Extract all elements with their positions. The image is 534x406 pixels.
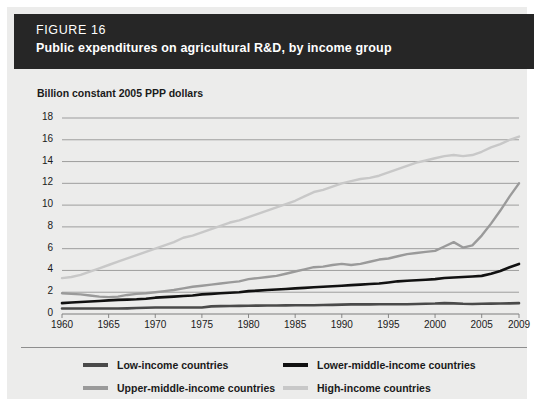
figure-header: FIGURE 16 Public expenditures on agricul… xyxy=(14,14,534,69)
y-axis-title: Billion constant 2005 PPP dollars xyxy=(37,87,203,99)
legend-item[interactable]: High-income countries xyxy=(283,382,527,394)
legend-label: High-income countries xyxy=(317,382,431,394)
legend-item[interactable]: Lower-middle-income countries xyxy=(283,359,527,371)
legend-swatch-icon xyxy=(83,386,108,390)
chart-legend: Low-income countriesLower-middle-income … xyxy=(21,359,527,394)
legend-swatch-icon xyxy=(283,386,308,390)
x-tick-label: 1980 xyxy=(229,319,269,330)
legend-item[interactable]: Low-income countries xyxy=(83,359,283,371)
x-tick-label: 1975 xyxy=(182,319,222,330)
x-tick-label: 1965 xyxy=(89,319,129,330)
y-tick-label: 8 xyxy=(31,220,53,231)
y-tick-label: 12 xyxy=(31,176,53,187)
y-tick-label: 10 xyxy=(31,198,53,209)
x-tick-label: 1970 xyxy=(135,319,175,330)
legend-label: Upper-middle-income countries xyxy=(117,382,275,394)
y-tick-label: 0 xyxy=(31,307,53,318)
y-tick-label: 14 xyxy=(31,155,53,166)
legend-swatch-icon xyxy=(283,363,308,367)
x-tick-label: 2005 xyxy=(462,319,502,330)
x-tick-label: 1990 xyxy=(322,319,362,330)
legend-separator xyxy=(21,347,527,348)
x-tick-label: 1985 xyxy=(275,319,315,330)
legend-label: Low-income countries xyxy=(117,359,228,371)
legend-swatch-icon xyxy=(83,363,108,367)
series-line xyxy=(62,264,519,303)
x-tick-label: 1960 xyxy=(42,319,82,330)
series-line xyxy=(62,183,519,297)
y-tick-label: 16 xyxy=(31,133,53,144)
legend-item[interactable]: Upper-middle-income countries xyxy=(83,382,283,394)
x-tick-label: 2000 xyxy=(415,319,455,330)
figure-container: FIGURE 16 Public expenditures on agricul… xyxy=(0,0,534,406)
series-line xyxy=(62,137,519,279)
x-tick-label: 1995 xyxy=(368,319,408,330)
y-tick-label: 2 xyxy=(31,285,53,296)
chart-svg xyxy=(7,107,534,332)
series-line xyxy=(62,303,519,308)
legend-label: Lower-middle-income countries xyxy=(317,359,476,371)
x-tick-label: 2009 xyxy=(499,319,534,330)
figure-title: Public expenditures on agricultural R&D,… xyxy=(36,39,534,58)
y-tick-label: 18 xyxy=(31,111,53,122)
plot-area xyxy=(7,107,534,332)
figure-label: FIGURE 16 xyxy=(36,22,534,39)
y-tick-label: 6 xyxy=(31,242,53,253)
y-tick-label: 4 xyxy=(31,263,53,274)
